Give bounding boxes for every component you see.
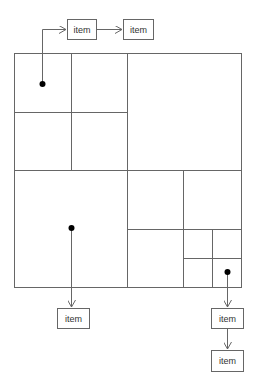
point-dot xyxy=(40,81,46,87)
item-label: item xyxy=(65,314,82,324)
item-label: item xyxy=(73,25,90,35)
point-dot xyxy=(69,225,75,231)
data-points xyxy=(40,81,231,275)
connector-point1-to-item1 xyxy=(43,30,67,85)
item-label: item xyxy=(219,356,236,366)
item-label: item xyxy=(219,314,236,324)
item-box: item xyxy=(212,309,244,329)
item-box: item xyxy=(212,351,244,372)
item-label: item xyxy=(130,25,147,35)
quadtree-subdivisions xyxy=(14,53,241,287)
quadtree-diagram: item item item item item xyxy=(0,0,256,387)
item-box: item xyxy=(68,20,97,40)
item-box: item xyxy=(124,20,154,40)
item-box: item xyxy=(58,309,90,329)
connectors xyxy=(43,30,228,350)
point-dot xyxy=(225,269,231,275)
